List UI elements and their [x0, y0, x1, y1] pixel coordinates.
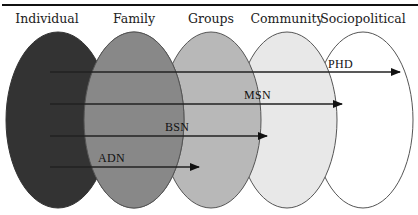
level-label-individual: Individual	[15, 11, 79, 26]
level-label-family: Family	[113, 11, 156, 26]
level-label-groups: Groups	[188, 11, 234, 26]
level-label-community: Community	[251, 11, 325, 26]
degree-label-bsn: BSN	[165, 120, 189, 134]
degree-label-phd: PHD	[328, 57, 353, 71]
degree-label-adn: ADN	[98, 151, 125, 165]
degree-label-msn: MSN	[244, 88, 271, 102]
level-label-sociopolitical: Sociopolitical	[320, 11, 406, 26]
nursing-education-levels-diagram: Individual Family Groups Community Socio…	[0, 0, 418, 215]
